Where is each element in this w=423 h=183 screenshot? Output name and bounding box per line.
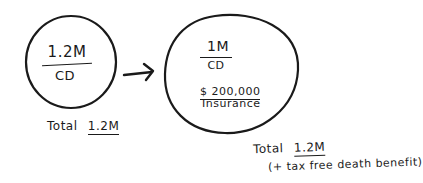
- right-total-label: Total: [253, 141, 284, 156]
- right-cd-amount: 1M: [200, 38, 236, 54]
- left-cd-label: CD: [42, 68, 88, 83]
- right-total-value: 1.2M: [294, 140, 326, 157]
- right-circle: [165, 15, 298, 133]
- right-fraction-line: [200, 57, 232, 58]
- left-total-value: 1.2M: [88, 119, 119, 135]
- right-insurance-label: Insurance: [202, 97, 260, 110]
- arrow-right-icon: [124, 64, 153, 80]
- left-total-label: Total: [47, 119, 78, 133]
- left-cd-amount: 1.2M: [42, 44, 92, 60]
- right-cd-label: CD: [200, 59, 232, 72]
- left-circle: [26, 16, 116, 108]
